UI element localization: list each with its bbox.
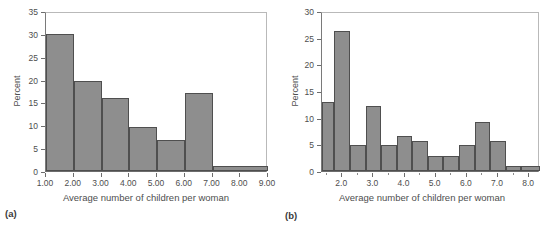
histogram-bar — [428, 156, 444, 171]
x-axis-tick — [466, 173, 467, 177]
x-axis-tick-label: 7.0 — [491, 179, 503, 188]
histogram-bar — [46, 34, 74, 171]
y-axis-tick-label: 20 — [29, 76, 38, 85]
histogram-bar — [366, 106, 382, 171]
y-axis-tick — [41, 149, 45, 150]
histogram-bar — [490, 141, 506, 171]
x-axis-tick — [239, 173, 240, 177]
x-axis-minor-tick — [357, 173, 358, 175]
y-axis-tick-label: 15 — [305, 88, 314, 97]
y-axis-tick — [41, 81, 45, 82]
x-axis-tick-label: 6.0 — [460, 179, 472, 188]
x-axis-tick-label: 1.00 — [37, 179, 54, 188]
y-axis-tick — [41, 35, 45, 36]
y-axis-tick-label: 30 — [29, 31, 38, 40]
y-axis-tick-label: 5 — [33, 145, 38, 154]
y-axis-tick — [317, 12, 321, 13]
x-axis-minor-tick — [419, 173, 420, 175]
y-axis-tick-label: 25 — [29, 53, 38, 62]
histogram-bar — [506, 166, 522, 171]
x-axis-title: Average number of children per woman — [22, 192, 270, 203]
histogram-bar — [443, 156, 459, 171]
x-axis-tick-label: 2.00 — [64, 179, 81, 188]
x-axis-tick-label: 6.00 — [175, 179, 192, 188]
y-axis-tick — [317, 172, 321, 173]
histogram-bar — [334, 31, 350, 171]
x-axis-tick — [101, 173, 102, 177]
y-axis-tick-label: 0 — [33, 168, 38, 177]
plot-frame — [321, 12, 539, 172]
x-axis-title: Average number of children per woman — [298, 192, 546, 203]
x-axis-tick — [184, 173, 185, 177]
y-axis-tick-label: 10 — [29, 122, 38, 131]
x-axis-tick-label: 4.0 — [398, 179, 410, 188]
x-axis-tick — [45, 173, 46, 177]
x-axis-minor-tick — [326, 173, 327, 175]
panel-caption: (b) — [285, 210, 297, 221]
x-axis-tick — [497, 173, 498, 177]
y-axis-tick-label: 35 — [29, 8, 38, 17]
histogram-figure: 05101520253035Percent1.002.003.004.005.0… — [0, 0, 556, 229]
x-axis-tick — [372, 173, 373, 177]
x-axis-tick-label: 7.00 — [203, 179, 220, 188]
y-axis-title: Percent — [12, 56, 22, 126]
y-axis-tick — [41, 103, 45, 104]
histogram-bar — [397, 136, 413, 171]
y-axis-tick-label: 25 — [305, 34, 314, 43]
histogram-bars — [46, 13, 266, 171]
y-axis-tick-label: 0 — [309, 168, 314, 177]
panel-caption: (a) — [5, 208, 17, 219]
y-axis: 05101520253035 — [0, 12, 45, 172]
x-axis-minor-tick — [388, 173, 389, 175]
x-axis-minor-tick — [450, 173, 451, 175]
x-axis-tick — [435, 173, 436, 177]
histogram-bar — [74, 81, 102, 172]
y-axis-tick-label: 10 — [305, 114, 314, 123]
histogram-bar — [157, 140, 185, 171]
x-axis-tick-label: 3.00 — [92, 179, 109, 188]
histogram-bar — [185, 93, 213, 171]
histogram-bar — [102, 98, 130, 171]
plot-frame — [45, 12, 267, 172]
x-axis-tick-label: 2.0 — [335, 179, 347, 188]
x-axis-tick — [128, 173, 129, 177]
histogram-bar — [129, 127, 157, 171]
x-axis-minor-tick — [513, 173, 514, 175]
y-axis-tick — [317, 145, 321, 146]
y-axis-tick-label: 5 — [309, 141, 314, 150]
x-axis-tick — [267, 173, 268, 177]
y-axis-tick — [317, 65, 321, 66]
y-axis-tick-label: 30 — [305, 8, 314, 17]
x-axis-tick-label: 8.0 — [522, 179, 534, 188]
x-axis-tick-label: 9.00 — [259, 179, 276, 188]
histogram-bar — [459, 145, 475, 171]
x-axis-tick — [341, 173, 342, 177]
histogram-bar — [381, 145, 397, 171]
y-axis-tick — [317, 39, 321, 40]
x-axis-tick-label: 3.0 — [366, 179, 378, 188]
panel-a: 05101520253035Percent1.002.003.004.005.0… — [0, 0, 278, 229]
histogram-bar — [521, 166, 540, 171]
histogram-bar — [322, 102, 334, 171]
histogram-bars — [322, 13, 538, 171]
panel-b: 051015202530Percent2.03.04.05.06.07.08.0… — [278, 0, 556, 229]
y-axis-tick-label: 20 — [305, 61, 314, 70]
histogram-bar — [213, 166, 269, 171]
y-axis-tick-label: 15 — [29, 99, 38, 108]
x-axis-tick — [212, 173, 213, 177]
x-axis-tick-label: 8.00 — [231, 179, 248, 188]
y-axis-title: Percent — [290, 56, 300, 126]
histogram-bar — [412, 141, 428, 171]
x-axis-tick — [528, 173, 529, 177]
x-axis-tick-label: 5.0 — [429, 179, 441, 188]
histogram-bar — [475, 122, 491, 171]
x-axis-tick — [404, 173, 405, 177]
x-axis-tick-label: 4.00 — [120, 179, 137, 188]
y-axis-tick — [41, 12, 45, 13]
x-axis-tick-label: 5.00 — [148, 179, 165, 188]
y-axis-tick — [317, 92, 321, 93]
y-axis-tick — [317, 119, 321, 120]
histogram-bar — [350, 145, 366, 171]
y-axis-tick — [41, 58, 45, 59]
y-axis-tick — [41, 126, 45, 127]
